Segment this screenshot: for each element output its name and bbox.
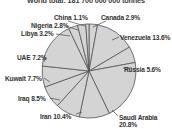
- leader-line-china: [68, 21, 85, 26]
- pie-label-kuwait: Kuwait 7.7%: [5, 75, 42, 82]
- pie-label-russia: Russia 5.6%: [124, 66, 161, 73]
- pie-label-saudi-arabia-value: 20.8%: [119, 121, 157, 128]
- chart-canvas: World total: 181 700 000 000 tonnes: [0, 0, 172, 129]
- pie-label-saudi-arabia-name: Saudi Arabia: [119, 114, 157, 121]
- pie-label-libya: Libya 3.2%: [21, 30, 54, 37]
- pie-label-saudi-arabia: Saudi Arabia 20.8%: [119, 114, 157, 129]
- pie-label-venezuela: Venezuela 13.6%: [120, 34, 170, 41]
- pie-label-iran: Iran 10.4%: [40, 113, 71, 120]
- pie-label-canada: Canada 2.9%: [101, 14, 140, 21]
- pie-label-china: China 1.1%: [54, 14, 88, 21]
- pie-label-uae: UAE 7.2%: [17, 54, 47, 61]
- pie-label-iraq: Iraq 8.5%: [18, 95, 46, 102]
- leader-line-saudi-arabia: [112, 110, 118, 116]
- pie-label-nigeria: Nigeria 2.8%: [31, 22, 68, 29]
